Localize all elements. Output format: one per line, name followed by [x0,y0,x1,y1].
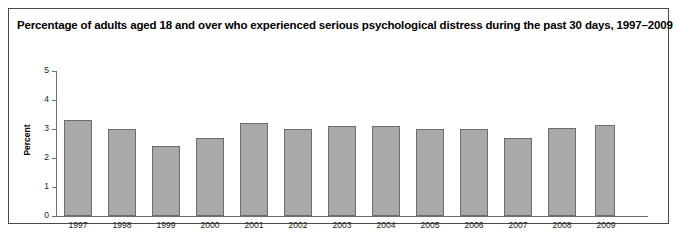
x-axis-line [56,216,648,217]
y-axis-tick-label: 1 [29,181,49,191]
bar-slot [188,71,232,216]
x-axis-tick-label: 2006 [452,220,496,230]
bar-2004[interactable] [372,126,400,216]
x-axis-tick-label: 2001 [232,220,276,230]
bar-1999[interactable] [152,146,180,216]
x-axis-tick-label: 2004 [364,220,408,230]
bar-slot [320,71,364,216]
bar-2007[interactable] [504,138,532,216]
y-axis-tick [52,216,57,217]
y-axis-tick-label: 5 [29,65,49,75]
plot-area: Percent 012345 1997199819992000200120022… [9,47,670,223]
page-title: Percentage of adults aged 18 and over wh… [17,19,657,31]
y-axis-tick-label: 2 [29,152,49,162]
bar-slot [496,71,540,216]
bar-2003[interactable] [328,126,356,216]
bar-2006[interactable] [460,129,488,216]
bar-1998[interactable] [108,129,136,216]
x-axis-tick-label: 2000 [188,220,232,230]
bar-slot [452,71,496,216]
x-axis-tick-label: 2009 [584,220,628,230]
x-axis-tick-label: 2008 [540,220,584,230]
bar-slot [408,71,452,216]
bar-slot [232,71,276,216]
bar-slot [364,71,408,216]
bar-2000[interactable] [196,138,224,216]
y-axis-tick-label: 3 [29,123,49,133]
x-axis-tick-label: 1998 [100,220,144,230]
bar-slot [540,71,584,216]
bar-slot [584,71,628,216]
x-axis-tick-label: 2003 [320,220,364,230]
y-axis-tick-label: 4 [29,94,49,104]
bar-2009[interactable] [595,125,615,216]
y-axis-tick-label: 0 [29,210,49,220]
bar-series [56,71,648,216]
bar-2008[interactable] [548,128,576,216]
x-axis-tick-label: 2005 [408,220,452,230]
bar-1997[interactable] [64,120,92,216]
bar-slot [144,71,188,216]
bar-slot [100,71,144,216]
x-axis-tick-label: 2002 [276,220,320,230]
x-axis-tick-label: 2007 [496,220,540,230]
bar-2001[interactable] [240,123,268,216]
bar-slot [276,71,320,216]
x-axis-tick-label: 1997 [56,220,100,230]
bar-slot [56,71,100,216]
bar-2002[interactable] [284,129,312,216]
x-axis-tick-label: 1999 [144,220,188,230]
bar-2005[interactable] [416,129,444,216]
chart-figure: Percentage of adults aged 18 and over wh… [8,8,669,224]
